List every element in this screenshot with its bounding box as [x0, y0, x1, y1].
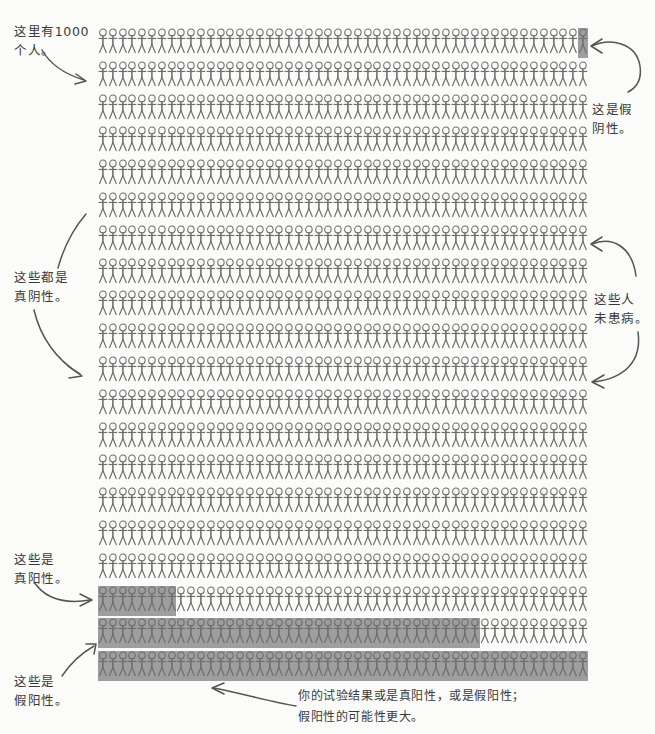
stick-figure-icon [157, 553, 167, 586]
stick-figure-icon [225, 389, 235, 422]
stick-figure-icon [127, 389, 137, 422]
stick-figure-icon [176, 553, 186, 586]
stick-figure-icon [216, 225, 226, 258]
stick-figure-icon [108, 323, 118, 356]
stick-figure-icon [186, 225, 196, 258]
stick-figure-icon [539, 61, 549, 94]
stick-figure-icon [509, 323, 519, 356]
stick-figure-icon [196, 454, 206, 487]
stick-figure-icon [578, 159, 588, 192]
stick-figure-icon [343, 258, 353, 291]
stick-figure-icon [245, 258, 255, 291]
stick-figure-icon [549, 651, 559, 684]
stick-figure-icon [372, 422, 382, 455]
stick-figure-icon [441, 94, 451, 127]
stick-figure-icon [137, 618, 147, 651]
annotation-false-positive: 这些是 假阳性。 [14, 672, 68, 710]
stick-figure-icon [353, 94, 363, 127]
stick-figure-icon [265, 356, 275, 389]
stick-figure-icon [167, 258, 177, 291]
stick-figure-icon [323, 126, 333, 159]
stick-figure-icon [519, 28, 529, 61]
stick-figure-icon [225, 454, 235, 487]
stick-figure-icon [274, 61, 284, 94]
stick-figure-icon [539, 454, 549, 487]
stick-figure-icon [372, 618, 382, 651]
stick-figure-icon [392, 487, 402, 520]
stick-figure-icon [333, 618, 343, 651]
stick-figure-icon [225, 586, 235, 619]
stick-figure-icon [235, 618, 245, 651]
grid-row [98, 61, 588, 94]
stick-figure-icon [460, 290, 470, 323]
stick-figure-icon [519, 290, 529, 323]
stick-figure-icon [294, 487, 304, 520]
stick-figure-icon [500, 520, 510, 553]
stick-figure-icon [167, 159, 177, 192]
stick-figure-icon [451, 487, 461, 520]
stick-figure-icon [431, 323, 441, 356]
stick-figure-icon [294, 258, 304, 291]
stick-figure-icon [118, 454, 128, 487]
stick-figure-icon [509, 487, 519, 520]
stick-figure-icon [274, 389, 284, 422]
annotation-no-disease: 这些人 未患病。 [594, 290, 648, 328]
stick-figure-icon [382, 389, 392, 422]
stick-figure-icon [460, 159, 470, 192]
stick-figure-icon [539, 192, 549, 225]
stick-figure-icon [500, 94, 510, 127]
stick-figure-icon [451, 553, 461, 586]
stick-figure-icon [421, 192, 431, 225]
stick-figure-icon [343, 618, 353, 651]
stick-figure-icon [539, 159, 549, 192]
stick-figure-icon [382, 61, 392, 94]
stick-figure-icon [431, 126, 441, 159]
stick-figure-icon [353, 422, 363, 455]
stick-figure-icon [323, 323, 333, 356]
stick-figure-icon [127, 258, 137, 291]
stick-figure-icon [441, 323, 451, 356]
stick-figure-icon [157, 520, 167, 553]
stick-figure-icon [137, 323, 147, 356]
stick-figure-icon [372, 159, 382, 192]
stick-figure-icon [470, 553, 480, 586]
stick-figure-icon [460, 422, 470, 455]
stick-figure-icon [216, 323, 226, 356]
stick-figure-icon [490, 389, 500, 422]
stick-figure-icon [108, 192, 118, 225]
stick-figure-icon [421, 454, 431, 487]
stick-figure-icon [274, 94, 284, 127]
stick-figure-icon [353, 192, 363, 225]
stick-figure-icon [382, 651, 392, 684]
stick-figure-icon [127, 28, 137, 61]
stick-figure-icon [265, 586, 275, 619]
stick-figure-icon [343, 28, 353, 61]
stick-figure-icon [186, 28, 196, 61]
stick-figure-icon [98, 487, 108, 520]
stick-figure-icon [529, 618, 539, 651]
stick-figure-icon [343, 389, 353, 422]
stick-figure-icon [529, 225, 539, 258]
stick-figure-icon [118, 422, 128, 455]
stick-figure-icon [127, 192, 137, 225]
stick-figure-icon [196, 618, 206, 651]
stick-figure-icon [294, 290, 304, 323]
stick-figure-icon [372, 258, 382, 291]
stick-figure-icon [421, 323, 431, 356]
stick-figure-icon [451, 225, 461, 258]
stick-figure-icon [558, 454, 568, 487]
stick-figure-icon [235, 28, 245, 61]
stick-figure-icon [118, 94, 128, 127]
stick-figure-icon [353, 618, 363, 651]
stick-figure-icon [225, 487, 235, 520]
stick-figure-icon [441, 290, 451, 323]
stick-figure-icon [137, 159, 147, 192]
stick-figure-icon [167, 422, 177, 455]
stick-figure-icon [480, 520, 490, 553]
stick-figure-icon [274, 553, 284, 586]
stick-figure-icon [294, 61, 304, 94]
stick-figure-icon [490, 126, 500, 159]
stick-figure-icon [490, 290, 500, 323]
stick-figure-icon [343, 323, 353, 356]
stick-figure-icon [255, 126, 265, 159]
